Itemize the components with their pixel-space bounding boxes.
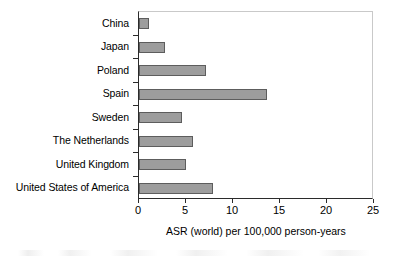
x-axis-tick-label: 0 — [135, 203, 141, 217]
bar-china — [139, 18, 149, 29]
bar-united-states-of-america — [139, 183, 213, 194]
bar-spain — [139, 89, 267, 100]
caption-artifact — [18, 250, 378, 256]
bar-row — [139, 59, 372, 83]
x-axis-tick-label: 5 — [182, 203, 188, 217]
y-axis-label-poland: Poland — [0, 58, 134, 82]
bar-poland — [139, 65, 206, 76]
plot-area — [138, 11, 373, 199]
bar-row — [139, 12, 372, 36]
bar-row — [139, 130, 372, 154]
bar-japan — [139, 42, 165, 53]
x-axis-title: ASR (world) per 100,000 person-years — [138, 225, 374, 238]
bar-row — [139, 177, 372, 201]
y-axis-label-spain: Spain — [0, 82, 134, 106]
bar-row — [139, 153, 372, 177]
x-axis-tick-labels: 0510152025 — [138, 203, 374, 219]
y-axis-label-the-netherlands: The Netherlands — [0, 129, 134, 153]
bar-row — [139, 106, 372, 130]
bar-chart-figure: China Japan Poland Spain Sweden The Neth… — [0, 0, 395, 260]
bar-united-kingdom — [139, 159, 186, 170]
x-axis-tick-label: 10 — [226, 203, 238, 217]
y-axis-label-united-kingdom: United Kingdom — [0, 152, 134, 176]
y-axis-label-sweden: Sweden — [0, 105, 134, 129]
bar-row — [139, 36, 372, 60]
y-axis-label-united-states-of-america: United States of America — [0, 176, 134, 200]
x-axis-tick-label: 25 — [367, 203, 379, 217]
y-axis-label-china: China — [0, 11, 134, 35]
bar-sweden — [139, 112, 182, 123]
y-axis-label-japan: Japan — [0, 35, 134, 59]
bar-row — [139, 83, 372, 107]
bar-the-netherlands — [139, 136, 193, 147]
bars-layer — [139, 12, 372, 198]
x-axis-tick-label: 15 — [273, 203, 285, 217]
x-axis-tick-label: 20 — [320, 203, 332, 217]
y-axis-category-labels: China Japan Poland Spain Sweden The Neth… — [0, 11, 134, 199]
